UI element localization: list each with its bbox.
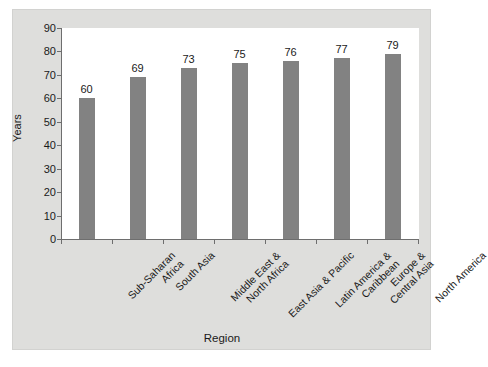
bar[interactable] (181, 68, 197, 239)
y-axis-tick-label: 30 (30, 163, 56, 174)
y-axis-tick-labels: 9080706050403020100 (30, 21, 56, 246)
bar[interactable] (385, 54, 401, 239)
bar-value-label: 69 (118, 63, 158, 74)
y-axis-tick-mark (57, 28, 61, 29)
bar-value-label: 73 (169, 54, 209, 65)
bar-value-label: 76 (271, 47, 311, 58)
x-axis-tick-mark (163, 240, 164, 244)
y-axis-tick-mark (57, 216, 61, 217)
y-axis-tick-mark (57, 239, 61, 240)
x-axis-tick-mark (316, 240, 317, 244)
y-axis-title: Years (11, 98, 23, 158)
x-axis-tick-mark (112, 240, 113, 244)
bar[interactable] (232, 63, 248, 239)
y-axis-tick-label: 90 (30, 23, 56, 34)
bar-value-label: 75 (220, 49, 260, 60)
bar-value-label: 79 (373, 40, 413, 51)
y-axis-tick-label: 20 (30, 187, 56, 198)
y-axis-tick-label: 60 (30, 93, 56, 104)
y-axis-tick-mark (57, 75, 61, 76)
y-axis-tick-mark (57, 145, 61, 146)
bar[interactable] (283, 61, 299, 239)
bar[interactable] (334, 58, 350, 239)
y-axis-tick-label: 50 (30, 116, 56, 127)
y-axis-tick-label: 0 (30, 234, 56, 245)
x-axis-title: Region (0, 332, 444, 344)
x-axis-tick-mark (418, 240, 419, 244)
x-axis-tick-mark (214, 240, 215, 244)
x-axis-tick-mark (265, 240, 266, 244)
bar-value-label: 60 (67, 84, 107, 95)
x-axis-category-label: North America (432, 249, 488, 305)
y-axis-tick-label: 10 (30, 210, 56, 221)
y-axis-tick-label: 70 (30, 69, 56, 80)
y-axis-tick-mark (57, 192, 61, 193)
y-axis-tick-label: 80 (30, 46, 56, 57)
y-axis-tick-mark (57, 169, 61, 170)
y-axis-tick-mark (57, 98, 61, 99)
y-axis-tick-mark (57, 122, 61, 123)
y-axis-tick-label: 40 (30, 140, 56, 151)
bar[interactable] (130, 77, 146, 239)
bar[interactable] (79, 98, 95, 239)
x-axis-category-label-line: North America (432, 249, 488, 305)
bar-value-label: 77 (322, 44, 362, 55)
x-axis-tick-mark (61, 240, 62, 244)
y-axis-tick-mark (57, 51, 61, 52)
x-axis-tick-mark (367, 240, 368, 244)
